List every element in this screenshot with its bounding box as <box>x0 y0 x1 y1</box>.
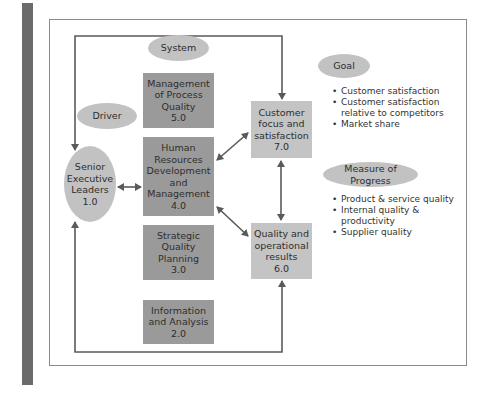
quality-results-node: Quality and operational results 6.0 <box>251 223 312 279</box>
goal-item: Customer satisfaction <box>332 86 457 97</box>
measure-list: Product & service quality Internal quali… <box>332 194 457 238</box>
measure-item: Supplier quality <box>332 227 457 238</box>
human-resources-node: Human Resources Development and Manageme… <box>143 137 214 216</box>
driver-label: Driver <box>77 103 137 129</box>
measure-item: Internal quality & productivity <box>332 205 457 227</box>
goal-label: Goal <box>318 54 370 78</box>
strategic-planning-node: Strategic Quality Planning 3.0 <box>143 225 214 280</box>
customer-focus-node: Customer focus and satisfaction 7.0 <box>251 101 312 158</box>
goal-item: Market share <box>332 119 457 130</box>
measure-of-progress-label: Measure of Progress <box>323 162 418 187</box>
measure-item: Product & service quality <box>332 194 457 205</box>
senior-executive-leaders-node: Senior Executive Leaders 1.0 <box>64 146 116 222</box>
information-analysis-node: Information and Analysis 2.0 <box>143 300 214 344</box>
system-label: System <box>148 35 209 61</box>
goal-list: Customer satisfaction Customer satisfact… <box>332 86 457 130</box>
goal-item: Customer satisfaction relative to compet… <box>332 97 457 119</box>
process-quality-node: Management of Process Quality 5.0 <box>143 73 214 128</box>
